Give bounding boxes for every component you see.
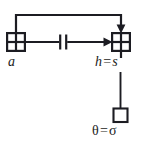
node-theta-sigma-outline <box>114 109 128 123</box>
node-theta-sigma-label: θ=σ <box>92 124 117 138</box>
node-a[interactable] <box>7 33 25 51</box>
label-s-text: s <box>112 54 118 69</box>
node-theta-sigma[interactable] <box>114 109 128 123</box>
diagram-graphics <box>0 0 145 142</box>
label-sigma-text: σ <box>109 123 117 138</box>
node-a-label: a <box>8 55 15 69</box>
feedback-loop-path <box>16 15 121 33</box>
node-h-s-label: h=s <box>95 55 118 69</box>
capacitor-icon <box>60 35 66 50</box>
label-a-text: a <box>8 54 15 69</box>
edge-feedback-loop <box>16 15 125 34</box>
label-theta-text: θ <box>92 123 99 138</box>
diagram-canvas: a h=s θ=σ <box>0 0 145 142</box>
label-equals-1: = <box>102 54 112 69</box>
node-h-s[interactable] <box>112 33 130 51</box>
edge-hs-to-theta <box>121 51 122 108</box>
edge-a-to-hs <box>25 35 113 50</box>
label-equals-2: = <box>99 123 109 138</box>
